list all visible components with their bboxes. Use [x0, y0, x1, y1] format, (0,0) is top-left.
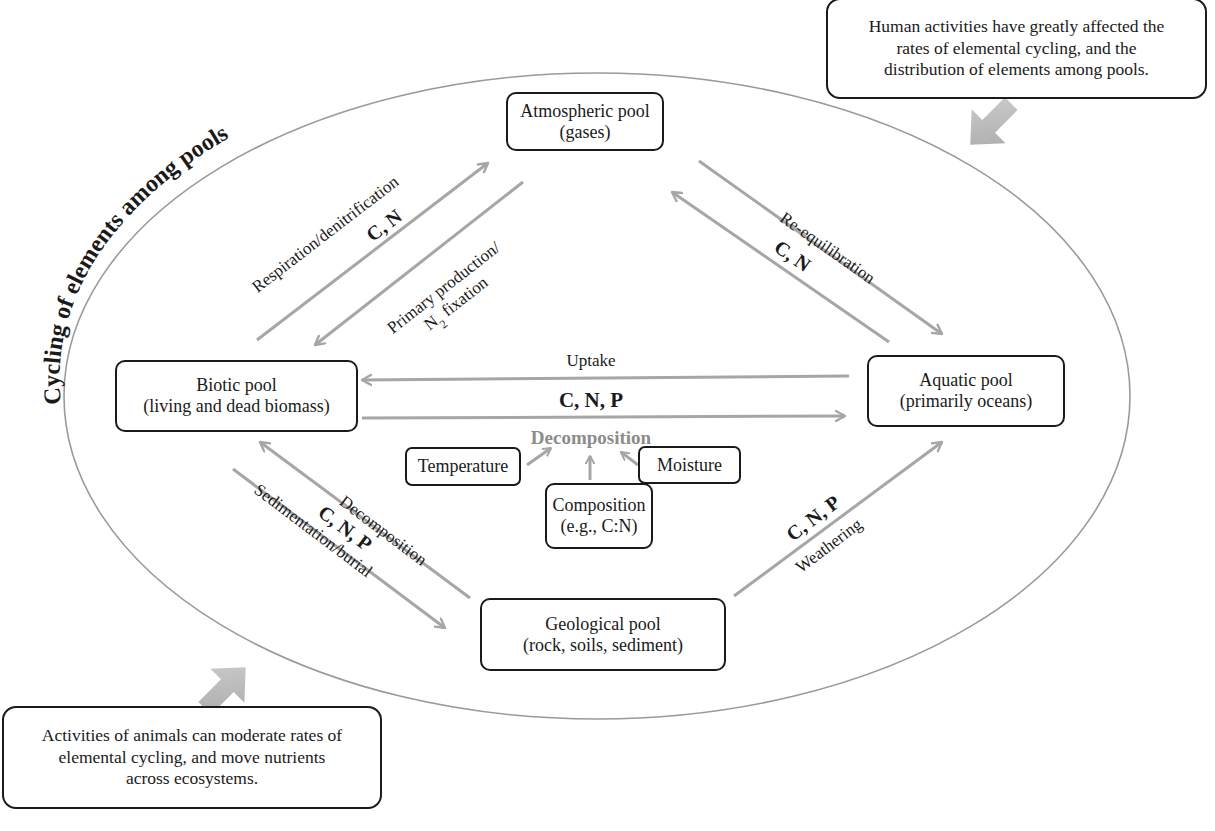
arrow-biotic-to-aquatic	[362, 416, 845, 418]
geological-pool-detail: (rock, soils, sediment)	[523, 635, 683, 656]
temperature-factor-box: Temperature	[405, 447, 521, 486]
human-callout-line-3: distribution of elements among pools.	[884, 59, 1149, 81]
arrow-moisture-to-decomposition	[621, 452, 638, 465]
label-uptake: Uptake	[566, 351, 615, 370]
moisture-factor-box: Moisture	[638, 446, 741, 484]
biotic-pool-detail: (living and dead biomass)	[143, 396, 329, 417]
human-callout-line-2: rates of elemental cycling, and the	[896, 38, 1136, 60]
temperature-factor-label: Temperature	[418, 456, 509, 477]
human-activities-callout: Human activities have greatly affected t…	[826, 0, 1207, 99]
geological-pool-box: Geological pool (rock, soils, sediment)	[480, 598, 726, 671]
atmospheric-pool-name: Atmospheric pool	[520, 101, 649, 122]
elements-biotic-aquatic: C, N, P	[559, 388, 623, 412]
arrow-weathering	[734, 442, 942, 596]
aquatic-pool-box: Aquatic pool (primarily oceans)	[867, 355, 1065, 427]
composition-factor-box: Composition (e.g., C:N)	[545, 483, 653, 549]
composition-factor-label: Composition	[552, 495, 645, 516]
animals-callout-line-2: elemental cycling, and move nutrients	[59, 747, 326, 769]
animals-callout-line-3: across ecosystems.	[126, 768, 258, 790]
arrow-uptake	[362, 376, 849, 380]
decomposition-center-label: Decomposition	[531, 427, 652, 448]
atmospheric-pool-box: Atmospheric pool (gases)	[506, 92, 664, 151]
animals-callout-line-1: Activities of animals can moderate rates…	[42, 725, 342, 747]
human-callout-line-1: Human activities have greatly affected t…	[869, 16, 1165, 38]
aquatic-pool-name: Aquatic pool	[919, 370, 1012, 391]
aquatic-pool-detail: (primarily oceans)	[900, 391, 1032, 412]
composition-factor-example: (e.g., C:N)	[561, 516, 638, 537]
biotic-pool-box: Biotic pool (living and dead biomass)	[115, 360, 358, 432]
arrow-temperature-to-decomposition	[527, 448, 551, 465]
moisture-factor-label: Moisture	[657, 455, 722, 476]
biotic-pool-name: Biotic pool	[196, 375, 277, 396]
atmospheric-pool-detail: (gases)	[560, 122, 611, 143]
geological-pool-name: Geological pool	[545, 614, 660, 635]
animal-activities-callout: Activities of animals can moderate rates…	[2, 706, 382, 809]
